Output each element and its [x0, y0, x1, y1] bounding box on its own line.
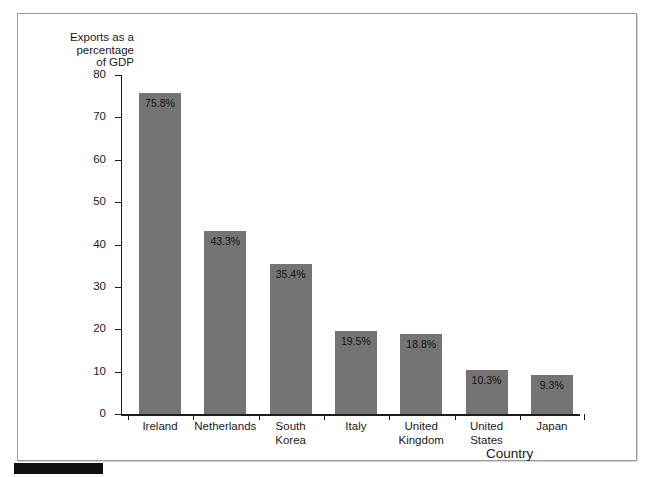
- category-label: Netherlands: [190, 419, 260, 433]
- bar-value-label: 43.3%: [204, 236, 246, 247]
- category-label: South Korea: [256, 419, 326, 447]
- y-tick-mark: 60: [115, 160, 121, 161]
- y-tick-mark: 10: [115, 372, 121, 373]
- y-axis-title: Exports as a percentage of GDP: [56, 31, 134, 69]
- bar: 9.3%: [531, 375, 573, 414]
- x-axis-title: Country: [486, 446, 533, 461]
- chart-figure-frame: Exports as a percentage of GDP 010203040…: [17, 13, 637, 461]
- category-label: Japan: [517, 419, 587, 433]
- y-tick-mark: 80: [115, 75, 121, 76]
- y-tick-mark: 50: [115, 202, 121, 203]
- bar: 19.5%: [335, 331, 377, 414]
- y-tick-label: 40: [93, 239, 106, 251]
- bar: 35.4%: [270, 264, 312, 414]
- y-tick-mark: 70: [115, 117, 121, 118]
- y-tick-label: 60: [93, 154, 106, 166]
- y-tick-mark: 40: [115, 245, 121, 246]
- y-tick-label: 30: [93, 281, 106, 293]
- y-axis-line: [121, 75, 122, 415]
- bar-value-label: 19.5%: [335, 336, 377, 347]
- category-label: United States: [452, 419, 522, 447]
- category-label: Ireland: [125, 419, 195, 433]
- x-axis-line: [121, 414, 580, 416]
- y-tick-label: 70: [93, 112, 106, 124]
- bar-value-label: 35.4%: [270, 269, 312, 280]
- y-tick-label: 10: [93, 366, 106, 378]
- y-tick-label: 50: [93, 196, 106, 208]
- y-tick-label: 0: [100, 408, 106, 420]
- bar: 43.3%: [204, 231, 246, 414]
- bar-value-label: 18.8%: [400, 339, 442, 350]
- category-label: Italy: [321, 419, 391, 433]
- category-label: United Kingdom: [386, 419, 456, 447]
- y-tick-label: 80: [93, 69, 106, 81]
- y-tick-mark: 30: [115, 287, 121, 288]
- bar-value-label: 10.3%: [466, 375, 508, 386]
- bar-value-label: 75.8%: [139, 98, 181, 109]
- y-tick-mark: 20: [115, 329, 121, 330]
- plot-area: 01020304050607080 75.8%43.3%35.4%19.5%18…: [121, 75, 579, 414]
- bar: 18.8%: [400, 334, 442, 414]
- y-tick-label: 20: [93, 324, 106, 336]
- y-tick-mark: 0: [115, 414, 121, 415]
- bar-value-label: 9.3%: [531, 380, 573, 391]
- black-marker-bar: [14, 463, 103, 474]
- bar: 10.3%: [466, 370, 508, 414]
- bar: 75.8%: [139, 93, 181, 414]
